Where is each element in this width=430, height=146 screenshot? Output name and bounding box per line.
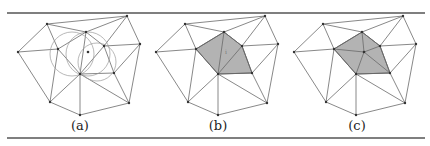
cavity-polygon — [196, 32, 252, 74]
query-point — [87, 51, 90, 54]
triangle-edge — [129, 44, 140, 103]
triangle-edge — [356, 103, 405, 115]
triangle-edge — [265, 16, 278, 44]
mesh-vertex — [195, 48, 197, 50]
mesh-vertex — [57, 48, 59, 50]
triangle-edge — [405, 44, 416, 103]
triangle-edge — [185, 16, 265, 24]
caption-b: (b) — [198, 118, 238, 133]
triangle-edge — [188, 49, 196, 102]
mesh-vertex — [241, 45, 243, 47]
mesh-vertex — [217, 73, 219, 75]
panel-a-circumcircles — [17, 15, 141, 116]
mesh-vertex — [223, 31, 225, 33]
panel-b-cavity — [155, 15, 279, 116]
triangle-edge — [47, 24, 58, 49]
mesh-vertex — [404, 102, 406, 104]
mesh-vertex — [415, 43, 417, 45]
triangle-edge — [390, 44, 416, 73]
triangle-edge — [104, 44, 140, 46]
mesh-vertex — [49, 101, 51, 103]
mesh-vertex — [277, 43, 279, 45]
mesh-vertex — [187, 101, 189, 103]
mesh-vertex — [155, 51, 157, 53]
mesh-vertex — [79, 73, 81, 75]
mesh-vertex — [126, 15, 128, 17]
triangle-edge — [323, 24, 334, 49]
mesh-vertex — [113, 72, 115, 74]
panel-c-retriangulated — [293, 15, 417, 116]
triangle-edge — [326, 74, 356, 102]
triangle-edge — [47, 24, 86, 32]
mesh-vertex — [379, 45, 381, 47]
mesh-vertex — [325, 101, 327, 103]
triangle-edge — [50, 74, 80, 102]
mesh-vertex — [128, 102, 130, 104]
triangle-edge — [50, 49, 58, 102]
triangle-edge — [86, 32, 104, 46]
triangle-edge — [326, 49, 334, 102]
triangle-edge — [80, 103, 129, 115]
triangle-edge — [294, 49, 334, 52]
triangle-edge — [156, 49, 196, 52]
triangle-edge — [252, 44, 278, 73]
mesh-vertex — [251, 72, 253, 74]
triangle-edge — [323, 16, 403, 24]
triangle-edge — [50, 102, 80, 115]
triangle-edge — [188, 74, 218, 102]
mesh-vertex — [266, 102, 268, 104]
triangle-edge — [403, 16, 416, 44]
triangle-edge — [127, 16, 140, 44]
mesh-vertex — [322, 23, 324, 25]
triangle-edge — [267, 44, 278, 103]
triangle-edge — [242, 44, 278, 46]
caption-a: (a) — [60, 118, 100, 133]
mesh-vertex — [264, 15, 266, 17]
triangle-edge — [323, 24, 362, 32]
mesh-vertex — [333, 48, 335, 50]
mesh-vertex — [46, 23, 48, 25]
triangle-edge — [156, 24, 185, 52]
mesh-vertex — [17, 51, 19, 53]
mesh-vertex — [402, 15, 404, 17]
triangle-edge — [47, 16, 127, 24]
mesh-vertex — [103, 45, 105, 47]
mesh-vertex — [355, 114, 357, 116]
triangle-edge — [188, 102, 218, 115]
caption-c: (c) — [337, 118, 377, 133]
mesh-vertex — [389, 72, 391, 74]
triangle-edge — [185, 24, 196, 49]
inserted-vertex — [363, 51, 366, 54]
triangle-edge — [156, 52, 188, 102]
mesh-vertex — [217, 114, 219, 116]
mesh-vertex — [355, 73, 357, 75]
triangle-edge — [18, 24, 47, 52]
triangle-edge — [326, 102, 356, 115]
mesh-vertex — [184, 23, 186, 25]
mesh-vertex — [139, 43, 141, 45]
cavity-label: i — [225, 48, 227, 55]
triangle-edge — [185, 24, 224, 32]
mesh-vertex — [85, 31, 87, 33]
mesh-vertex — [79, 114, 81, 116]
cavity-polygon — [334, 32, 390, 74]
triangle-edge — [18, 52, 50, 102]
triangle-edge — [18, 49, 58, 52]
triangle-edge — [294, 52, 326, 102]
triangle-edge — [380, 44, 416, 46]
triangle-edge — [114, 44, 140, 73]
triangle-edge — [58, 49, 80, 74]
mesh-vertex — [293, 51, 295, 53]
mesh-vertex — [361, 31, 363, 33]
triangle-edge — [218, 103, 267, 115]
triangle-edge — [294, 24, 323, 52]
